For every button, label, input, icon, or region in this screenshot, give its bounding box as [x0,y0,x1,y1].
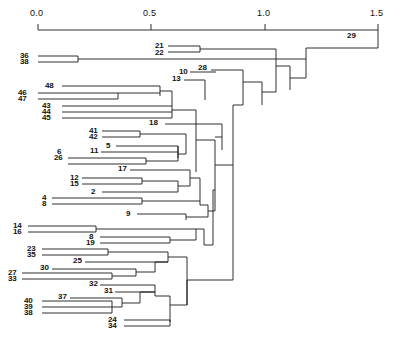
leaf-label-42: 42 [89,133,98,140]
leaf-label-34: 34 [108,322,117,329]
leaf-label-47: 47 [18,95,27,102]
leaf-label-16: 16 [13,228,22,235]
leaf-label-22: 22 [155,49,164,56]
leaf-label-35: 35 [27,251,36,258]
leaf-label-15: 15 [70,180,79,187]
node-label-29: 29 [347,32,356,40]
leaf-label-38: 38 [20,58,29,65]
link-root-29 [306,36,378,48]
leaf-label-2: 2 [91,188,95,195]
node-label-17: 17 [118,165,127,173]
axis-tick-label-3: 1.5 [370,8,383,18]
leaf-label-8: 8 [42,200,46,207]
leaf-label-38b: 38 [24,309,33,316]
node-label-11: 11 [90,147,98,155]
axis-group [38,24,378,30]
axis-tick-label-2: 1.0 [257,8,270,18]
leaf-label-13: 13 [172,75,181,82]
leaf-label-33: 33 [8,275,17,282]
node-label-37: 37 [58,293,67,301]
dendrogram-figure: 0.0 0.5 1.0 1.5 21 22 36 38 10 13 48 46 … [0,0,412,343]
leaf-label-48: 48 [45,82,54,89]
node-label-25: 25 [73,257,82,265]
node-label-32: 32 [89,280,98,288]
leaf-label-45: 45 [42,114,51,121]
axis-tick-label-0: 0.0 [30,8,43,18]
leaf-label-5: 5 [106,142,110,149]
leaf-label-6: 6 [57,148,61,155]
leaf-label-9: 9 [126,210,130,217]
leaf-label-19: 19 [86,239,95,246]
axis-tick-label-1: 0.5 [143,8,156,18]
node-label-28: 28 [198,64,207,72]
node-label-18: 18 [149,119,158,127]
node-label-30: 30 [40,264,49,272]
node-label-31: 31 [104,287,113,295]
